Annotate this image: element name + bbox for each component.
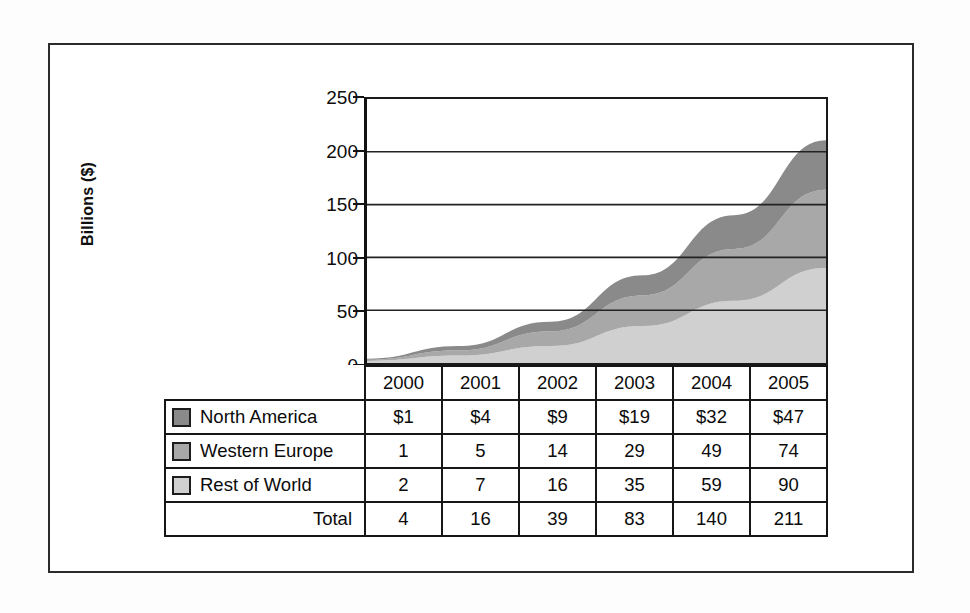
- cell-north-america-2001: $4: [442, 400, 519, 434]
- legend-swatch-icon: [172, 476, 191, 495]
- cell-north-america-2005: $47: [750, 400, 827, 434]
- cell-rest-of-world-2001: 7: [442, 468, 519, 502]
- table-row: Total4163983140211: [165, 502, 827, 536]
- series-label-rest-of-world: Rest of World: [165, 468, 365, 502]
- plot-area: [364, 97, 828, 365]
- legend-swatch-icon: [172, 408, 191, 427]
- y-tick-mark-50: [353, 310, 364, 312]
- cell-total-2000: 4: [365, 502, 442, 536]
- cell-north-america-2004: $32: [673, 400, 750, 434]
- plot-svg: [367, 99, 826, 363]
- figure-frame: Billions ($) 050100150200250 20002001200…: [48, 43, 914, 573]
- y-tick-label-200: 200: [302, 141, 358, 160]
- cell-total-2004: 140: [673, 502, 750, 536]
- cell-north-america-2000: $1: [365, 400, 442, 434]
- cell-rest-of-world-2005: 90: [750, 468, 827, 502]
- column-header-2001: 2001: [442, 366, 519, 400]
- y-tick-mark-150: [353, 203, 364, 205]
- legend-swatch-icon: [172, 442, 191, 461]
- series-label-text: Western Europe: [200, 442, 333, 461]
- table-row: North America$1$4$9$19$32$47: [165, 400, 827, 434]
- series-label-text: Rest of World: [200, 476, 312, 495]
- table-body: North America$1$4$9$19$32$47Western Euro…: [165, 400, 827, 536]
- cell-total-2001: 16: [442, 502, 519, 536]
- y-tick-label-50: 50: [302, 302, 358, 321]
- cell-total-2003: 83: [596, 502, 673, 536]
- table-corner-cell: [165, 366, 365, 400]
- y-tick-label-250: 250: [302, 88, 358, 107]
- cell-north-america-2003: $19: [596, 400, 673, 434]
- series-label-western-europe: Western Europe: [165, 434, 365, 468]
- table-row: Western Europe1514294974: [165, 434, 827, 468]
- cell-north-america-2002: $9: [519, 400, 596, 434]
- y-tick-mark-250: [353, 96, 364, 98]
- column-header-2002: 2002: [519, 366, 596, 400]
- cell-rest-of-world-2003: 35: [596, 468, 673, 502]
- column-header-2004: 2004: [673, 366, 750, 400]
- cell-western-europe-2001: 5: [442, 434, 519, 468]
- column-header-2003: 2003: [596, 366, 673, 400]
- cell-western-europe-2003: 29: [596, 434, 673, 468]
- y-tick-label-100: 100: [302, 248, 358, 267]
- data-table: 200020012002200320042005 North America$1…: [164, 365, 828, 537]
- y-tick-label-150: 150: [302, 195, 358, 214]
- cell-rest-of-world-2004: 59: [673, 468, 750, 502]
- cell-western-europe-2005: 74: [750, 434, 827, 468]
- y-tick-mark-200: [353, 150, 364, 152]
- cell-rest-of-world-2002: 16: [519, 468, 596, 502]
- series-label-north-america: North America: [165, 400, 365, 434]
- cell-total-2002: 39: [519, 502, 596, 536]
- cell-western-europe-2004: 49: [673, 434, 750, 468]
- series-label-text: North America: [200, 408, 317, 427]
- y-axis-title: Billions ($): [79, 104, 97, 304]
- column-header-2005: 2005: [750, 366, 827, 400]
- table-row: Rest of World2716355990: [165, 468, 827, 502]
- cell-western-europe-2002: 14: [519, 434, 596, 468]
- table-header-row: 200020012002200320042005: [165, 366, 827, 400]
- cell-western-europe-2000: 1: [365, 434, 442, 468]
- cell-total-2005: 211: [750, 502, 827, 536]
- column-header-2000: 2000: [365, 366, 442, 400]
- y-tick-mark-100: [353, 257, 364, 259]
- cell-rest-of-world-2000: 2: [365, 468, 442, 502]
- total-label: Total: [165, 502, 365, 536]
